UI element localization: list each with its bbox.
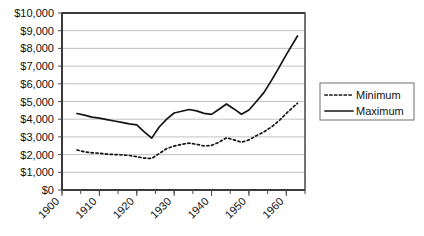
y-axis-label: $9,000: [20, 25, 54, 37]
x-axis-label: 1960: [260, 195, 286, 221]
legend-label-minimum: Minimum: [356, 89, 401, 101]
x-axis-label: 1920: [110, 195, 136, 221]
y-axis-label: $8,000: [20, 42, 54, 54]
x-axis-label: 1910: [73, 195, 99, 221]
y-axis-label: $4,000: [20, 113, 54, 125]
series-line-minimum: [77, 103, 298, 158]
chart-container: $0$1,000$2,000$3,000$4,000$5,000$6,000$7…: [0, 0, 424, 236]
series-line-maximum: [77, 36, 298, 138]
y-axis-label: $6,000: [20, 78, 54, 90]
line-chart: $0$1,000$2,000$3,000$4,000$5,000$6,000$7…: [0, 0, 424, 236]
x-axis-label: 1950: [223, 195, 249, 221]
y-axis-label: $0: [42, 184, 54, 196]
y-axis-label: $3,000: [20, 131, 54, 143]
y-axis-label: $5,000: [20, 96, 54, 108]
legend-label-maximum: Maximum: [356, 105, 404, 117]
x-axis-label: 1940: [185, 195, 211, 221]
x-axis-label: 1900: [36, 195, 62, 221]
y-axis-label: $10,000: [14, 7, 54, 19]
y-axis-label: $1,000: [20, 166, 54, 178]
y-axis-label: $2,000: [20, 149, 54, 161]
y-axis-label: $7,000: [20, 60, 54, 72]
x-axis-label: 1930: [148, 195, 174, 221]
